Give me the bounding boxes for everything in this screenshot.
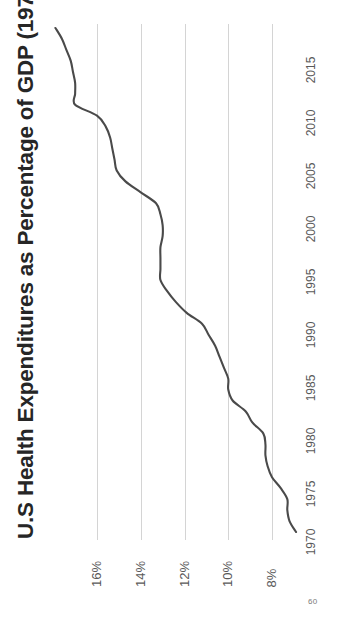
series-path-health-expenditures	[55, 28, 296, 532]
chart-title: U.S Health Expenditures as Percentage of…	[6, 1, 46, 541]
category-tick-2000: 2000	[303, 209, 319, 249]
category-tick-1995: 1995	[303, 262, 319, 302]
category-tick-2005: 2005	[303, 156, 319, 196]
value-tick-10pct: 10%	[220, 552, 236, 596]
plot-area	[48, 24, 292, 540]
category-tick-1970: 1970	[303, 522, 319, 562]
category-tick-1980: 1980	[303, 421, 319, 461]
value-tick-14pct: 14%	[133, 552, 149, 596]
value-tick-8pct: 8%	[264, 556, 280, 600]
category-tick-1985: 1985	[303, 368, 319, 408]
value-tick-12pct: 12%	[177, 552, 193, 596]
category-tick-1975: 1975	[303, 474, 319, 514]
value-tick-16pct: 16%	[89, 552, 105, 596]
slide-canvas: U.S Health Expenditures as Percentage of…	[0, 0, 346, 642]
slide-page-number: 60	[308, 597, 318, 606]
category-tick-2010: 2010	[303, 103, 319, 143]
category-tick-2015: 2015	[303, 50, 319, 90]
line-series	[48, 24, 292, 540]
category-tick-1990: 1990	[303, 315, 319, 355]
